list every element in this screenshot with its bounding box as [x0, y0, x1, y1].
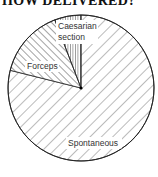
- label-caesarian-line1: Caesarian: [58, 21, 97, 31]
- center-dot: [79, 86, 82, 89]
- label-caesarian-line2: section: [58, 32, 85, 42]
- label-spontaneous: Spontaneous: [68, 138, 118, 148]
- pie-chart: Caesarian section Forceps Spontaneous: [0, 0, 158, 177]
- label-forceps: Forceps: [27, 61, 58, 71]
